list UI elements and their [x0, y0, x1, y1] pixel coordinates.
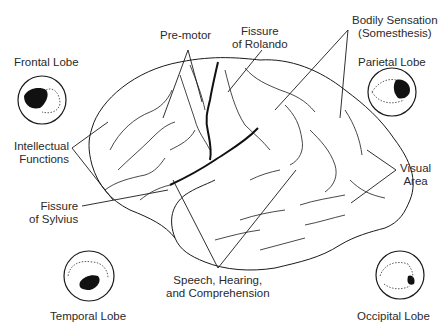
pointer-lines [72, 30, 396, 268]
label-occipital-lobe: Occipital Lobe [357, 310, 430, 323]
label-fissure-rolando: Fissure of Rolando [232, 25, 288, 51]
label-line: of Rolando [232, 38, 288, 51]
label-line: Visual [400, 162, 431, 175]
brain-outline [89, 58, 413, 270]
label-bodily-sensation: Bodily Sensation (Somesthesis) [352, 14, 438, 40]
label-frontal-lobe: Frontal Lobe [14, 56, 79, 69]
label-fissure-sylvius: Fissure of Sylvius [29, 200, 78, 226]
label-premotor: Pre-motor [160, 29, 211, 42]
label-intellectual-functions: Intellectual Functions [14, 140, 69, 166]
fissure-sylvius-line [170, 128, 258, 185]
brain-gyri [105, 65, 385, 250]
label-line: (Somesthesis) [352, 27, 438, 40]
occipital-lobe-inset [376, 251, 424, 299]
label-visual-area: Visual Area [400, 162, 431, 188]
label-temporal-lobe: Temporal Lobe [50, 310, 126, 323]
label-line: of Sylvius [29, 213, 78, 226]
label-line: Area [400, 175, 431, 188]
parietal-lobe-inset [368, 68, 416, 116]
label-line: Fissure [232, 25, 288, 38]
label-line: Bodily Sensation [352, 14, 438, 27]
temporal-lobe-inset [64, 251, 114, 301]
fissure-rolando-line [207, 62, 218, 160]
label-line: Fissure [29, 200, 78, 213]
label-line: Functions [14, 153, 69, 166]
label-line: and Comprehension [166, 287, 270, 300]
label-parietal-lobe: Parietal Lobe [358, 56, 426, 69]
label-line: Intellectual [14, 140, 69, 153]
frontal-lobe-inset [18, 76, 66, 124]
label-line: Speech, Hearing, [166, 274, 270, 287]
label-speech-hearing: Speech, Hearing, and Comprehension [166, 274, 270, 300]
